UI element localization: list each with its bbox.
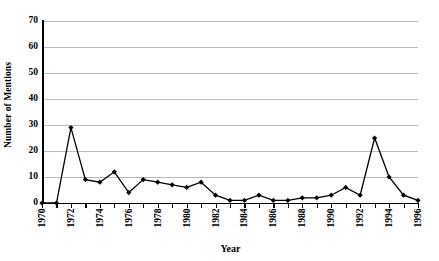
x-axis-tick [244, 203, 245, 208]
y-axis-title: Number of Mentions [0, 0, 16, 210]
x-axis-tick [129, 203, 130, 208]
x-axis-tick-label: 1996 [413, 209, 424, 243]
data-point-marker [372, 135, 377, 140]
x-axis-tick [331, 203, 332, 208]
x-axis-tick-label: 1980 [181, 209, 192, 243]
x-axis-tick-label: 1974 [94, 209, 105, 243]
x-axis-tick [273, 203, 274, 208]
data-point-marker [329, 193, 334, 198]
x-axis-tick [375, 203, 376, 208]
y-axis-title-text: Number of Mentions [3, 62, 13, 148]
x-axis-tick-label: 1990 [326, 209, 337, 243]
y-axis-tick-label: 50 [29, 68, 39, 78]
y-axis-tick-label: 60 [29, 42, 39, 52]
data-point-marker [256, 193, 261, 198]
x-axis-tick [158, 203, 159, 208]
x-axis-tick [216, 203, 217, 208]
data-point-marker [314, 195, 319, 200]
data-point-marker [155, 180, 160, 185]
x-axis-tick-label: 1992 [355, 209, 366, 243]
x-axis-title: Year [42, 243, 419, 254]
y-axis-tick-label: 40 [29, 94, 39, 104]
data-point-marker [300, 195, 305, 200]
x-axis-tick [317, 203, 318, 208]
data-point-marker [343, 185, 348, 190]
x-axis-tick-label: 1994 [384, 209, 395, 243]
x-axis-tick [259, 203, 260, 208]
x-axis-tick [71, 203, 72, 208]
x-axis-tick-label: 1986 [268, 209, 279, 243]
x-axis-tick-label: 1970 [37, 209, 48, 243]
x-axis-tick [100, 203, 101, 208]
y-axis-line [42, 20, 44, 204]
x-axis-tick [230, 203, 231, 208]
x-axis-tick-label: 1978 [152, 209, 163, 243]
data-point-marker [68, 125, 73, 130]
x-axis-tick-labels: 1970197219741976197819801982198419861988… [42, 209, 419, 243]
x-axis-tick [42, 203, 43, 208]
x-axis-tick-label: 1972 [65, 209, 76, 243]
y-axis-tick-label: 20 [29, 146, 39, 156]
y-axis-tick-label: 0 [33, 198, 38, 208]
y-axis-tick-label: 30 [29, 120, 39, 130]
data-point-marker [358, 193, 363, 198]
x-axis-tick [302, 203, 303, 208]
x-axis-tick [418, 203, 419, 208]
x-axis-tick [114, 203, 115, 208]
plot-area [42, 21, 418, 203]
data-point-marker [170, 182, 175, 187]
x-axis-tick [346, 203, 347, 208]
data-series [42, 21, 418, 203]
x-axis-tick [201, 203, 202, 208]
x-axis-tick [404, 203, 405, 208]
x-axis-tick [172, 203, 173, 208]
series-line [42, 128, 418, 203]
x-axis-tick-label: 1984 [239, 209, 250, 243]
x-axis-tick [389, 203, 390, 208]
x-axis-tick [187, 203, 188, 208]
y-axis-tick-label: 70 [29, 16, 39, 26]
x-axis-tick [85, 203, 86, 208]
x-axis-tick [143, 203, 144, 208]
x-axis-tick-label: 1988 [297, 209, 308, 243]
line-chart: Number of Mentions 010203040506070 19701… [0, 0, 439, 261]
data-point-marker [83, 177, 88, 182]
x-axis-tick [360, 203, 361, 208]
x-axis-tick [56, 203, 57, 208]
x-axis-tick [288, 203, 289, 208]
x-axis-tick-label: 1976 [123, 209, 134, 243]
data-point-marker [184, 185, 189, 190]
y-axis-tick-label: 10 [29, 172, 39, 182]
x-axis-tick-label: 1982 [210, 209, 221, 243]
